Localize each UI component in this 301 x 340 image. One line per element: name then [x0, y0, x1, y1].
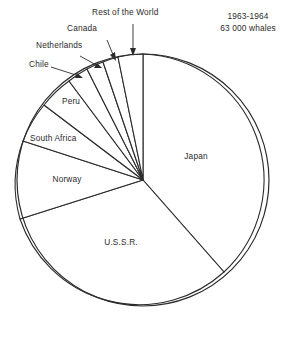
title-total: 63 000 whales	[220, 23, 275, 33]
leader-line-chile	[51, 67, 79, 76]
slice-label-ussr: U.S.S.R.	[104, 237, 137, 247]
slice-label-norway: Norway	[52, 174, 82, 184]
slice-label-peru: Peru	[62, 96, 80, 106]
pie-chart-canvas: Japan U.S.S.R. Norway South Africa Peru …	[0, 0, 301, 340]
slice-label-south-africa: South Africa	[30, 133, 77, 143]
slice-label-chile: Chile	[29, 59, 49, 69]
slice-label-japan: Japan	[184, 151, 208, 161]
chart-title-block: 1963-1964 63 000 whales	[220, 11, 275, 33]
slice-label-netherlands: Netherlands	[36, 40, 82, 50]
slice-label-rest-of-the-world: Rest of the World	[92, 7, 159, 17]
leader-line-netherlands	[80, 56, 98, 66]
title-period: 1963-1964	[227, 11, 268, 21]
slice-label-canada: Canada	[67, 23, 97, 33]
pie-chart-figure: Japan U.S.S.R. Norway South Africa Peru …	[0, 0, 301, 340]
